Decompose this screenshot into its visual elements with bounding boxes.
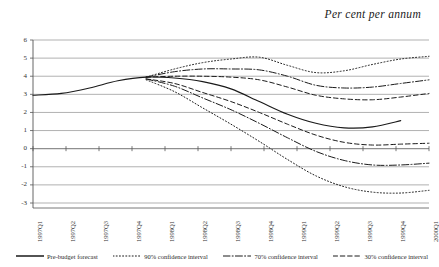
y-tick-label: 1 bbox=[11, 127, 27, 134]
x-tick-label: 1998Q1 bbox=[168, 221, 175, 242]
legend-item: 30% confidence interval bbox=[333, 252, 428, 260]
legend-line-swatch bbox=[16, 252, 44, 260]
legend-label: 30% confidence interval bbox=[364, 253, 428, 260]
legend-line-swatch bbox=[333, 252, 361, 260]
series-line bbox=[146, 80, 429, 193]
y-tick-label: -2 bbox=[11, 181, 27, 188]
y-tick-label: -3 bbox=[11, 200, 27, 207]
x-tick-label: 2000Q1 bbox=[432, 221, 439, 242]
legend-item: 70% confidence interval bbox=[223, 252, 318, 260]
series-line bbox=[33, 77, 401, 128]
x-tick-label: 1997Q3 bbox=[102, 221, 109, 242]
x-tick-label: 1997Q1 bbox=[36, 221, 43, 242]
legend-label: 70% confidence interval bbox=[254, 253, 318, 260]
y-tick-label: 0 bbox=[11, 145, 27, 152]
x-tick-label: 1999Q1 bbox=[300, 221, 307, 242]
chart-legend: Pre-budget forecast90% confidence interv… bbox=[16, 248, 428, 264]
series-line bbox=[146, 79, 429, 145]
x-tick-label: 1999Q2 bbox=[333, 221, 340, 242]
legend-label: 90% confidence interval bbox=[144, 253, 208, 260]
x-tick-label: 1999Q3 bbox=[366, 221, 373, 242]
legend-label: Pre-budget forecast bbox=[47, 253, 98, 260]
x-tick-label: 1998Q2 bbox=[201, 221, 208, 242]
legend-line-swatch bbox=[113, 252, 141, 260]
series-line bbox=[146, 56, 429, 77]
y-tick-label: 2 bbox=[11, 109, 27, 116]
x-tick-label: 1997Q4 bbox=[135, 221, 142, 242]
legend-item: 90% confidence interval bbox=[113, 252, 208, 260]
legend-item: Pre-budget forecast bbox=[16, 252, 98, 260]
series-line bbox=[146, 79, 429, 165]
legend-line-swatch bbox=[223, 252, 251, 260]
series-line bbox=[146, 69, 429, 88]
x-tick-label: 1998Q3 bbox=[234, 221, 241, 242]
x-tick-label: 1999Q4 bbox=[399, 221, 406, 242]
y-tick-label: 5 bbox=[11, 55, 27, 62]
y-tick-label: 6 bbox=[11, 37, 27, 44]
y-tick-label: 3 bbox=[11, 91, 27, 98]
x-tick-label: 1997Q2 bbox=[69, 221, 76, 242]
y-tick-label: -1 bbox=[11, 163, 27, 170]
x-tick-label: 1998Q4 bbox=[267, 221, 274, 242]
y-tick-label: 4 bbox=[11, 73, 27, 80]
